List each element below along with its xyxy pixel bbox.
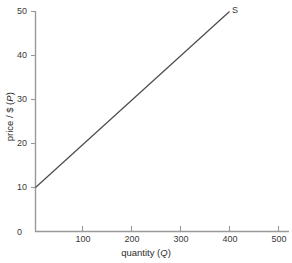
x-tick-label-100: 100 (68, 235, 98, 244)
supply-curve-line (36, 12, 230, 188)
y-axis-title: price / $ (P) (5, 77, 15, 157)
chart-plot-area (0, 0, 292, 263)
y-tick-label-40: 40 (8, 51, 27, 60)
y-axis-title-close: ) (4, 92, 15, 95)
x-axis-title: quantity (Q) (0, 248, 292, 258)
x-tick-label-200: 200 (117, 235, 147, 244)
y-axis-title-symbol: P (4, 95, 15, 101)
y-axis-title-text: price / $ ( (4, 102, 15, 142)
y-tick-label-0: 0 (8, 228, 22, 237)
x-tick-label-400: 400 (215, 235, 245, 244)
x-tick-label-500: 500 (264, 235, 292, 244)
series-label-supply: S (232, 6, 238, 15)
x-axis-title-text: quantity ( (121, 247, 160, 258)
x-axis-title-symbol: Q (160, 247, 167, 258)
x-axis-title-close: ) (168, 247, 171, 258)
supply-curve-chart: 50 40 30 20 10 0 100 200 300 400 500 S q… (0, 0, 292, 263)
y-tick-label-10: 10 (8, 183, 27, 192)
x-tick-label-300: 300 (166, 235, 196, 244)
y-tick-label-50: 50 (8, 7, 27, 16)
